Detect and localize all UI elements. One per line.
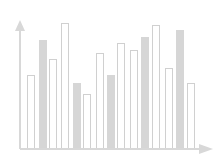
- bar-1: [28, 76, 35, 150]
- bar-3: [50, 60, 57, 150]
- bar-14: [177, 31, 184, 150]
- bar-10: [131, 51, 138, 150]
- bar-6: [84, 95, 91, 150]
- bar-12: [153, 26, 160, 150]
- bar-5: [74, 84, 81, 150]
- bar-15: [188, 84, 195, 150]
- bar-9: [118, 44, 125, 150]
- bar-7: [97, 54, 104, 150]
- bar-chart: [0, 0, 218, 160]
- bar-13: [166, 69, 173, 150]
- bar-11: [142, 38, 149, 150]
- bar-8: [108, 76, 115, 150]
- bar-2: [40, 41, 47, 150]
- y-axis-arrow-icon: [15, 20, 25, 31]
- x-axis-arrow-icon: [199, 144, 213, 154]
- bar-4: [62, 24, 69, 150]
- bars-group: [28, 24, 195, 150]
